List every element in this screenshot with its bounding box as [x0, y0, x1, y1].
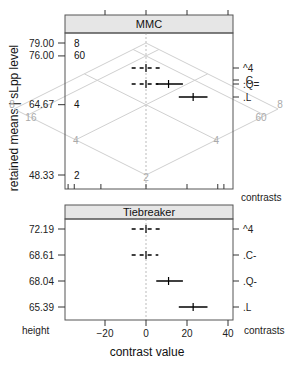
x-tick-label: −20 [97, 328, 114, 339]
y-tick-label: 64.67 [29, 99, 54, 110]
contrast-name-label: .Q- [243, 276, 257, 287]
mmc-panel: MMC 816860442 79.00876.006064.67448.332^… [9, 10, 283, 189]
contrasts-label-bottom: contrasts [244, 325, 285, 336]
level-label: 60 [74, 50, 86, 61]
level-label: 2 [74, 170, 80, 181]
y-tick-label: 68.61 [29, 250, 54, 261]
contrast-name-label: .L [243, 302, 252, 313]
x-axis-title: contrast value [110, 345, 185, 359]
contrasts-label-top: contrasts [241, 192, 282, 203]
isomeans-line-8 [146, 43, 278, 109]
isomeans-label: 8 [9, 99, 15, 110]
x-tick-label: 20 [181, 328, 193, 339]
tiebreaker-panel: Tiebreaker 72.1968.6168.0465.39^4.C-.Q-.… [29, 205, 257, 339]
y-tick-label: 76.00 [29, 50, 54, 61]
y-tick-label: 65.39 [29, 302, 54, 313]
contrast-name-label: ^4 [243, 63, 254, 74]
isomeans-label: 8 [277, 99, 283, 110]
y-tick-label: 79.00 [29, 38, 54, 49]
x-tick-label: 40 [222, 328, 234, 339]
contrast-name-label: .C- [243, 250, 256, 261]
x-tick-label: 0 [143, 328, 149, 339]
y-tick-label: 68.04 [29, 276, 54, 287]
contrast-name-label: .L [243, 92, 252, 103]
tiebreaker-frame [65, 219, 233, 320]
contrast-name-label: ^4 [243, 224, 254, 235]
level-label: 8 [74, 38, 80, 49]
y-axis-title: retained means | sLpp level [7, 45, 21, 192]
level-label: 4 [74, 99, 80, 110]
isomeans-label: 4 [73, 135, 79, 146]
mmc-chart: retained means | sLpp level contrast val… [0, 0, 294, 371]
y-tick-label: 72.19 [29, 224, 54, 235]
height-label: height [22, 325, 49, 336]
mmc-strip-title: MMC [136, 18, 162, 30]
isomeans-label: 4 [214, 135, 220, 146]
contrast-name-label: .Q= [243, 79, 260, 90]
y-tick-label: 48.33 [29, 170, 54, 181]
mmc-frame [65, 33, 233, 189]
isomeans-label: 60 [256, 112, 268, 123]
isomeans-label: 16 [25, 112, 37, 123]
tiebreaker-strip-title: Tiebreaker [123, 206, 176, 218]
